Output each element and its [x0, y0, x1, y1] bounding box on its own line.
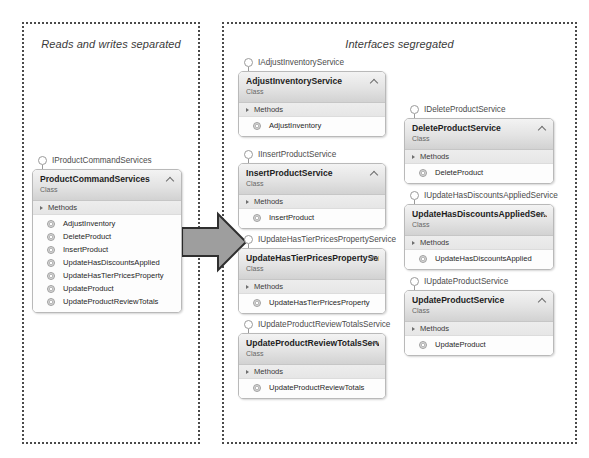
expander-triangle-icon[interactable]	[246, 370, 249, 374]
method-icon	[419, 341, 427, 349]
method-row[interactable]: InsertProduct	[239, 211, 385, 224]
method-icon	[47, 233, 55, 241]
methods-list: AdjustInventory	[239, 117, 385, 136]
uml-class-box[interactable]: InsertProductServiceClassMethodsInsertPr…	[238, 163, 386, 229]
method-row[interactable]: InsertProduct	[33, 243, 181, 256]
chevron-up-icon[interactable]	[538, 297, 547, 304]
methods-compartment-header[interactable]: Methods	[33, 201, 181, 215]
interface-lollipop[interactable]: IUpdateProductService	[410, 276, 508, 290]
interface-lollipop[interactable]: IDeleteProductService	[410, 104, 505, 118]
chevron-up-icon[interactable]	[370, 78, 379, 85]
methods-compartment-header[interactable]: Methods	[405, 322, 553, 336]
chevron-up-icon[interactable]	[370, 170, 379, 177]
method-icon	[253, 384, 261, 392]
class-stereotype: Class	[40, 186, 175, 194]
methods-compartment-header[interactable]: Methods	[239, 103, 385, 117]
class-name: InsertProductService	[246, 168, 379, 178]
interface-label: IDeleteProductService	[424, 104, 505, 115]
chevron-up-icon[interactable]	[370, 340, 379, 347]
method-row[interactable]: UpdateHasDiscountsApplied	[33, 256, 181, 269]
interface-label: IUpdateHasTierPricesPropertyService	[258, 234, 396, 245]
methods-list: DeleteProduct	[405, 164, 553, 183]
uml-class-box[interactable]: AdjustInventoryServiceClassMethodsAdjust…	[238, 71, 386, 137]
interface-lollipop[interactable]: IUpdateHasDiscountsAppliedService	[410, 190, 558, 204]
expander-triangle-icon[interactable]	[412, 155, 415, 159]
method-icon	[47, 246, 55, 254]
uml-class-box[interactable]: UpdateHasTierPricesPropertySer...ClassMe…	[238, 248, 386, 314]
uml-class-box[interactable]: ProductCommandServicesClassMethodsAdjust…	[32, 169, 182, 313]
method-name: UpdateProductReviewTotals	[269, 383, 364, 392]
chevron-up-icon[interactable]	[538, 211, 547, 218]
method-icon	[253, 122, 261, 130]
expander-triangle-icon[interactable]	[246, 285, 249, 289]
method-icon	[253, 214, 261, 222]
method-name: DeleteProduct	[435, 168, 483, 177]
method-name: AdjustInventory	[63, 219, 115, 228]
uml-class-box[interactable]: UpdateProductReviewTotalsServ...ClassMet…	[238, 333, 386, 399]
class-box-header: UpdateProductServiceClass	[405, 291, 553, 322]
interface-lollipop[interactable]: IUpdateProductReviewTotalsService	[244, 319, 390, 333]
class-stereotype: Class	[246, 88, 379, 96]
method-row[interactable]: UpdateHasTierPricesProperty	[33, 269, 181, 282]
interface-lollipop[interactable]: IAdjustInventoryService	[244, 57, 344, 71]
class-stereotype: Class	[246, 350, 379, 358]
interface-label: IUpdateProductReviewTotalsService	[258, 319, 390, 330]
class-stereotype: Class	[246, 180, 379, 188]
class-box-header: ProductCommandServicesClass	[33, 170, 181, 201]
uml-class-box[interactable]: DeleteProductServiceClassMethodsDeletePr…	[404, 118, 554, 184]
class-stereotype: Class	[412, 221, 547, 229]
interface-ball-icon	[410, 105, 419, 114]
methods-compartment-label: Methods	[254, 197, 283, 206]
methods-compartment-label: Methods	[420, 152, 449, 161]
interface-ball-icon	[244, 150, 253, 159]
panel-left-title: Reads and writes separated	[24, 38, 198, 50]
class-box-header: DeleteProductServiceClass	[405, 119, 553, 150]
method-row[interactable]: DeleteProduct	[405, 166, 553, 179]
method-icon	[47, 259, 55, 267]
method-row[interactable]: UpdateProduct	[33, 282, 181, 295]
interface-lollipop[interactable]: IProductCommandServices	[38, 155, 152, 169]
uml-class-box[interactable]: UpdateProductServiceClassMethodsUpdatePr…	[404, 290, 554, 356]
class-name: AdjustInventoryService	[246, 76, 379, 86]
methods-compartment-header[interactable]: Methods	[239, 280, 385, 294]
methods-compartment-label: Methods	[254, 282, 283, 291]
interface-ball-icon	[38, 156, 47, 165]
methods-compartment-header[interactable]: Methods	[239, 195, 385, 209]
method-row[interactable]: UpdateHasDiscountsApplied	[405, 252, 553, 265]
method-row[interactable]: UpdateHasTierPricesProperty	[239, 296, 385, 309]
methods-compartment-header[interactable]: Methods	[405, 236, 553, 250]
method-row[interactable]: AdjustInventory	[239, 119, 385, 132]
method-name: InsertProduct	[269, 213, 314, 222]
interface-label: IUpdateHasDiscountsAppliedService	[424, 190, 558, 201]
methods-compartment-label: Methods	[48, 203, 77, 212]
methods-compartment-label: Methods	[420, 238, 449, 247]
expander-triangle-icon[interactable]	[412, 241, 415, 245]
method-row[interactable]: UpdateProduct	[405, 338, 553, 351]
method-name: UpdateHasDiscountsApplied	[63, 258, 160, 267]
class-name: UpdateProductService	[412, 295, 547, 305]
method-icon	[47, 272, 55, 280]
method-row[interactable]: AdjustInventory	[33, 217, 181, 230]
method-icon	[47, 220, 55, 228]
method-row[interactable]: UpdateProductReviewTotals	[239, 381, 385, 394]
interface-ball-icon	[410, 277, 419, 286]
methods-compartment-header[interactable]: Methods	[239, 365, 385, 379]
expander-triangle-icon[interactable]	[246, 108, 249, 112]
chevron-up-icon[interactable]	[370, 255, 379, 262]
method-row[interactable]: DeleteProduct	[33, 230, 181, 243]
expander-triangle-icon[interactable]	[412, 327, 415, 331]
expander-triangle-icon[interactable]	[246, 200, 249, 204]
method-name: UpdateProductReviewTotals	[63, 297, 158, 306]
uml-class-box[interactable]: UpdateHasDiscountsAppliedSer...ClassMeth…	[404, 204, 554, 270]
chevron-up-icon[interactable]	[166, 176, 175, 183]
interface-lollipop[interactable]: IUpdateHasTierPricesPropertyService	[244, 234, 396, 248]
expander-triangle-icon[interactable]	[40, 206, 43, 210]
chevron-up-icon[interactable]	[538, 125, 547, 132]
interface-lollipop[interactable]: IInsertProductService	[244, 149, 336, 163]
methods-compartment-header[interactable]: Methods	[405, 150, 553, 164]
class-name: UpdateHasDiscountsAppliedSer...	[412, 209, 547, 219]
method-row[interactable]: UpdateProductReviewTotals	[33, 295, 181, 308]
methods-list: InsertProduct	[239, 209, 385, 228]
methods-compartment-label: Methods	[420, 324, 449, 333]
method-name: UpdateProduct	[435, 340, 486, 349]
